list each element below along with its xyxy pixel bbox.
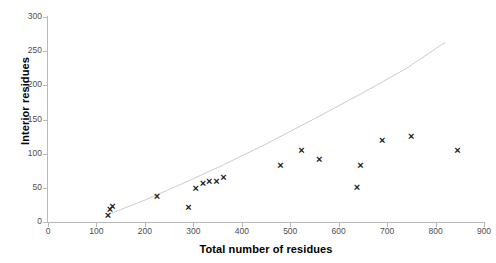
y-tick-label: 200	[10, 80, 42, 89]
x-tick-label: 700	[367, 227, 407, 236]
x-tick-label: 400	[222, 227, 262, 236]
y-tick-label: 150	[10, 115, 42, 124]
x-tick-label: 200	[125, 227, 165, 236]
x-axis-title: Total number of residues	[48, 243, 484, 255]
data-point	[184, 203, 193, 212]
y-tick-label: 50	[10, 183, 42, 192]
data-point	[407, 132, 416, 141]
data-point	[219, 173, 228, 182]
data-point	[153, 192, 162, 201]
y-tick	[43, 17, 48, 18]
x-tick-label: 0	[28, 227, 68, 236]
data-point	[356, 161, 365, 170]
data-point	[353, 183, 362, 192]
x-tick-label: 900	[464, 227, 496, 236]
x-tick-label: 100	[76, 227, 116, 236]
y-tick	[43, 154, 48, 155]
x-tick-label: 500	[270, 227, 310, 236]
data-point	[453, 146, 462, 155]
data-point	[297, 146, 306, 155]
y-tick-label: 100	[10, 149, 42, 158]
y-tick	[43, 85, 48, 86]
data-point	[315, 155, 324, 164]
y-tick-label: 250	[10, 46, 42, 55]
x-tick-label: 300	[173, 227, 213, 236]
y-tick-label: 300	[10, 12, 42, 21]
x-tick-label: 600	[319, 227, 359, 236]
data-point	[276, 161, 285, 170]
x-axis-line	[48, 222, 485, 223]
y-tick	[43, 188, 48, 189]
y-tick	[43, 51, 48, 52]
data-point	[108, 202, 117, 211]
y-tick-label: 0	[10, 217, 42, 226]
y-tick	[43, 120, 48, 121]
x-tick-label: 800	[416, 227, 456, 236]
data-point	[378, 136, 387, 145]
